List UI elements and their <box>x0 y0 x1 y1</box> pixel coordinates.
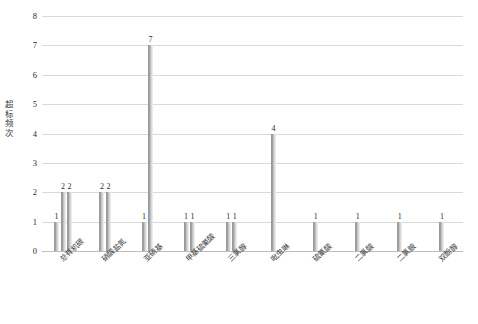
gridline <box>42 163 463 164</box>
y-axis-tick-label: 4 <box>24 129 37 139</box>
gridline <box>42 45 463 46</box>
bar <box>99 192 104 251</box>
y-axis-tick-label: 2 <box>24 187 37 197</box>
bar <box>148 45 153 251</box>
bar-value-label: 7 <box>144 35 158 44</box>
bar-value-label: 4 <box>267 124 281 133</box>
y-axis-tick-label: 6 <box>24 70 37 80</box>
gridline <box>42 16 463 17</box>
bar <box>226 222 231 251</box>
bar <box>313 222 318 251</box>
bar <box>106 192 111 251</box>
y-axis-tick-label: 0 <box>24 246 37 256</box>
y-axis-tick-label: 7 <box>24 40 37 50</box>
bar-value-label: 2 <box>63 182 77 191</box>
bar-value-label: 1 <box>351 212 365 221</box>
gridline <box>42 75 463 76</box>
bar-chart: 超标频次 012345678 1222217111141111 总有机碳硝酸盐氮… <box>0 0 478 324</box>
y-axis-tick-label: 3 <box>24 158 37 168</box>
bar <box>61 192 66 251</box>
plot-area: 1222217111141111 <box>42 16 463 251</box>
y-axis-tick-label: 5 <box>24 99 37 109</box>
gridline <box>42 134 463 135</box>
bar <box>184 222 189 251</box>
y-axis-tick-label: 8 <box>24 11 37 21</box>
gridline <box>42 104 463 105</box>
y-axis-tick-label: 1 <box>24 217 37 227</box>
bar-value-label: 1 <box>228 212 242 221</box>
bar <box>271 134 276 252</box>
bar <box>54 222 59 251</box>
bar-value-label: 1 <box>186 212 200 221</box>
bar-value-label: 2 <box>101 182 115 191</box>
bar-value-label: 1 <box>393 212 407 221</box>
bar <box>142 222 147 251</box>
bar-value-label: 1 <box>435 212 449 221</box>
y-axis-title: 超标频次 <box>2 100 16 138</box>
bar-value-label: 1 <box>309 212 323 221</box>
